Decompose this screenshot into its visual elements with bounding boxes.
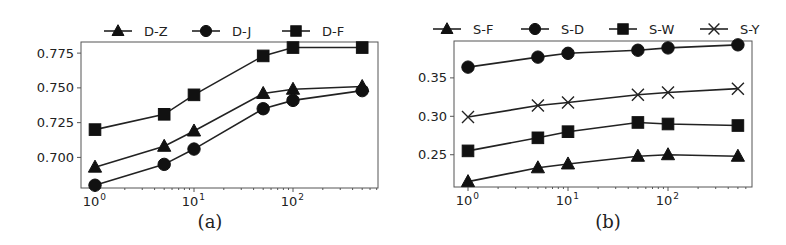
legend-item-s-y: S-Y	[700, 22, 759, 37]
data-point-circle	[257, 103, 269, 115]
legend-item-d-z: D-Z	[104, 24, 168, 39]
data-point-square	[732, 120, 744, 132]
series-d-j	[89, 84, 369, 191]
legend-item-d-j: D-J	[192, 24, 251, 39]
panel-caption: (b)	[595, 211, 621, 232]
series-s-d	[462, 39, 744, 74]
y-tick-label: 0.35	[418, 70, 447, 85]
legend-item-d-f: D-F	[282, 24, 344, 39]
panel-caption: (a)	[198, 211, 223, 232]
data-point-circle	[287, 94, 299, 106]
data-point-circle	[532, 51, 544, 63]
figure: 0.7000.7250.7500.775100101102D-ZD-JD-F(a…	[0, 0, 786, 245]
y-tick-label: 0.750	[37, 80, 74, 95]
data-point-square	[462, 145, 474, 157]
series-s-f	[461, 148, 744, 187]
legend-label: D-F	[322, 24, 344, 39]
legend-label: D-Z	[144, 24, 168, 39]
x-tick-label: 10	[182, 194, 199, 209]
legend-label: S-W	[649, 22, 674, 37]
data-point-square	[532, 132, 544, 144]
square-icon	[618, 24, 628, 34]
legend: D-ZD-JD-F	[104, 24, 344, 39]
x-tick-label: 10	[83, 194, 100, 209]
data-point-circle	[89, 179, 101, 191]
data-point-triangle	[187, 124, 200, 136]
data-point-square	[257, 50, 269, 62]
series-line	[468, 155, 738, 182]
data-point-circle	[562, 47, 574, 59]
data-point-triangle	[661, 148, 674, 160]
data-point-circle	[462, 61, 474, 73]
x-tick-label: 10	[281, 194, 298, 209]
legend: S-FS-DS-WS-Y	[433, 22, 759, 37]
circle-icon	[200, 25, 211, 36]
series-s-w	[462, 117, 743, 157]
triangle-icon	[441, 23, 453, 34]
data-point-square	[89, 124, 101, 136]
chart-panel-a: 0.7000.7250.7500.775100101102D-ZD-JD-F(a…	[37, 24, 378, 232]
data-point-circle	[356, 84, 368, 96]
data-point-square	[356, 42, 368, 54]
data-point-circle	[158, 158, 170, 170]
data-point-square	[632, 117, 644, 129]
y-tick-label: 0.25	[418, 147, 447, 162]
legend-label: D-J	[232, 24, 251, 39]
y-tick-label: 0.30	[418, 109, 447, 124]
circle-icon	[529, 23, 540, 34]
series-line	[95, 91, 362, 186]
x-tick-exponent: 1	[199, 192, 205, 202]
legend-label: S-Y	[740, 22, 759, 37]
triangle-icon	[112, 25, 124, 36]
series-s-y	[462, 83, 744, 123]
data-point-circle	[632, 44, 644, 56]
data-point-square	[188, 89, 200, 101]
x-tick-exponent: 1	[573, 191, 579, 201]
series-line	[468, 89, 738, 117]
data-point-circle	[732, 39, 744, 51]
legend-label: S-D	[561, 22, 584, 37]
series-d-z	[88, 79, 368, 172]
x-tick-exponent: 2	[673, 191, 679, 201]
series-line	[468, 45, 738, 67]
data-point-square	[562, 126, 574, 138]
legend-item-s-w: S-W	[609, 22, 674, 37]
legend-label: S-F	[473, 22, 493, 37]
x-tick-exponent: 2	[298, 192, 304, 202]
data-point-circle	[662, 42, 674, 54]
legend-item-s-f: S-F	[433, 22, 493, 37]
data-point-triangle	[731, 149, 744, 161]
plot-frame	[81, 42, 378, 188]
x-tick-label: 10	[656, 193, 673, 208]
data-point-square	[158, 109, 170, 121]
data-point-square	[287, 42, 299, 54]
y-tick-label: 0.775	[37, 46, 74, 61]
x-tick-label: 10	[556, 193, 573, 208]
x-tick-exponent: 0	[100, 192, 106, 202]
data-point-triangle	[158, 139, 171, 151]
legend-item-s-d: S-D	[521, 22, 584, 37]
series-line	[468, 122, 738, 150]
data-point-triangle	[286, 82, 299, 94]
x-tick-label: 10	[456, 193, 473, 208]
data-point-circle	[188, 143, 200, 155]
y-tick-label: 0.700	[37, 150, 74, 165]
chart-panel-b: 0.250.300.35100101102S-FS-DS-WS-Y(b)	[418, 22, 759, 232]
square-icon	[291, 26, 301, 36]
y-tick-label: 0.725	[37, 115, 74, 130]
x-tick-exponent: 0	[473, 191, 479, 201]
series-line	[95, 86, 362, 167]
data-point-square	[662, 118, 674, 130]
